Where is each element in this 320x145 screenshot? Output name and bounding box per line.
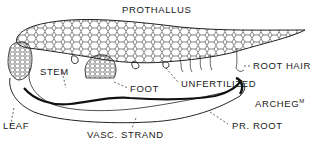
- label-unfertilized: UNFERTILIZED: [181, 79, 256, 89]
- leaf-blade-cells: [8, 42, 32, 80]
- label-stem: STEM: [40, 67, 69, 77]
- leader-foot: [114, 82, 128, 88]
- label-vasc-strand: VASC. STRAND: [87, 130, 164, 140]
- label-archegonium-text: ARCHEG: [255, 98, 299, 109]
- foot-cells: [85, 55, 116, 78]
- label-archegonium-sup: M: [299, 98, 305, 104]
- label-pr-root: PR. ROOT: [232, 121, 283, 131]
- label-leaf: LEAF: [3, 121, 29, 131]
- label-foot: FOOT: [130, 84, 159, 94]
- label-prothallus: PROTHALLUS: [122, 5, 191, 15]
- prothallus-shape: [16, 19, 305, 62]
- leader-pr-root: [210, 112, 228, 124]
- label-archegonium: ARCHEGM: [255, 98, 305, 109]
- label-root-hair: ROOT HAIR: [253, 61, 311, 71]
- leader-unfertilized: [166, 68, 178, 82]
